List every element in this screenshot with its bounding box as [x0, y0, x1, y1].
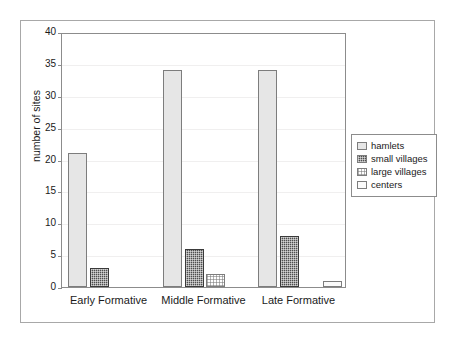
legend-swatch-icon	[357, 142, 367, 150]
legend-swatch-icon	[357, 155, 367, 163]
legend-item-label: centers	[371, 179, 402, 190]
y-axis-tick-mark	[58, 288, 62, 289]
legend-swatch-icon	[357, 168, 367, 176]
y-axis-tick-label: 5	[50, 250, 56, 260]
chart-figure: number of sites 0510152025303540 Early F…	[0, 0, 457, 340]
gridline	[62, 161, 345, 162]
y-axis-tick-mark	[58, 65, 62, 66]
y-axis-tick-label: 25	[45, 123, 56, 133]
x-axis-tick-label: Middle Formative	[154, 293, 254, 307]
y-axis-tick-mark	[58, 97, 62, 98]
y-axis-tick-label: 15	[45, 186, 56, 196]
y-axis-tick-labels: 0510152025303540	[30, 33, 56, 288]
y-axis-tick-label: 10	[45, 218, 56, 228]
y-axis-tick-mark	[58, 161, 62, 162]
y-axis-tick-label: 40	[45, 27, 56, 37]
gridline	[62, 129, 345, 130]
bar-centers-late-formative	[323, 281, 342, 287]
y-axis-tick-mark	[58, 192, 62, 193]
legend-item-label: large villages	[371, 166, 426, 177]
gridline	[62, 65, 345, 66]
legend-item-label: small villages	[371, 153, 428, 164]
y-axis-tick-label: 20	[45, 155, 56, 165]
legend-item-label: hamlets	[371, 140, 404, 151]
y-axis-tick-mark	[58, 224, 62, 225]
y-axis-tick-label: 35	[45, 59, 56, 69]
y-axis-tick-label: 30	[45, 91, 56, 101]
bar-small-villages-late-formative	[280, 236, 299, 287]
gridline	[62, 224, 345, 225]
y-axis-tick-mark	[58, 33, 62, 34]
x-axis-tick-labels: Early FormativeMiddle FormativeLate Form…	[61, 291, 346, 307]
plot-area	[61, 33, 346, 288]
bar-small-villages-middle-formative	[185, 249, 204, 287]
y-axis-tick-mark	[58, 129, 62, 130]
gridline	[62, 192, 345, 193]
gridline	[62, 97, 345, 98]
gridline	[62, 256, 345, 257]
bar-hamlets-middle-formative	[163, 70, 182, 287]
x-axis-tick-label: Late Formative	[249, 293, 349, 307]
bar-small-villages-early-formative	[90, 268, 109, 287]
legend-swatch-icon	[357, 181, 367, 189]
y-axis-tick-mark	[58, 256, 62, 257]
legend-item-large-villages: large villages	[357, 165, 431, 178]
y-axis-tick-label: 0	[50, 282, 56, 292]
legend-item-hamlets: hamlets	[357, 139, 431, 152]
chart-legend: hamletssmall villageslarge villagescente…	[351, 134, 437, 197]
legend-item-centers: centers	[357, 178, 431, 191]
x-axis-tick-label: Early Formative	[59, 293, 159, 307]
legend-item-small-villages: small villages	[357, 152, 431, 165]
bar-large-villages-middle-formative	[206, 274, 225, 287]
bar-hamlets-late-formative	[258, 70, 277, 287]
bar-hamlets-early-formative	[68, 153, 87, 287]
